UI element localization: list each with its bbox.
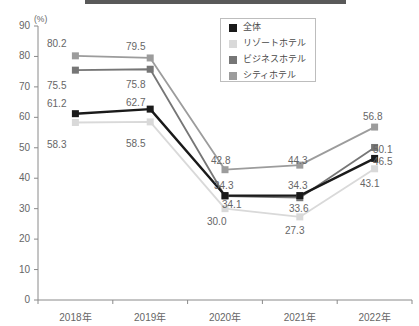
legend-item[interactable]: シティホテル bbox=[229, 68, 315, 83]
data-point-label: 75.8 bbox=[126, 79, 145, 90]
data-point-label: 50.1 bbox=[373, 144, 392, 155]
y-axis-tick-label: 30 bbox=[2, 203, 30, 214]
data-point-label: 27.3 bbox=[285, 225, 304, 236]
data-point-label: 58.5 bbox=[126, 138, 145, 149]
data-point-label: 75.5 bbox=[47, 80, 66, 91]
x-axis-tick-label: 2020年 bbox=[195, 309, 255, 324]
data-point-label: 42.8 bbox=[211, 155, 230, 166]
y-axis-tick-label: 10 bbox=[2, 264, 30, 275]
data-point-label: 43.1 bbox=[360, 178, 379, 189]
y-axis-tick-label: 70 bbox=[2, 81, 30, 92]
legend-item[interactable]: ビジネスホテル bbox=[229, 52, 315, 67]
y-axis-tick-label: 0 bbox=[2, 294, 30, 305]
y-axis-tick-label: 40 bbox=[2, 172, 30, 183]
legend-item-label: ビジネスホテル bbox=[243, 55, 306, 64]
legend-swatch-icon bbox=[229, 56, 237, 64]
data-point-label: 58.3 bbox=[47, 139, 66, 150]
data-point-label: 61.2 bbox=[47, 98, 66, 109]
data-point-label: 46.5 bbox=[373, 156, 392, 167]
data-point-label: 34.1 bbox=[222, 199, 241, 210]
y-axis-tick-label: 60 bbox=[2, 111, 30, 122]
data-point-label: 56.8 bbox=[363, 111, 382, 122]
x-axis-tick-label: 2018年 bbox=[45, 309, 105, 324]
data-point-label: 34.3 bbox=[214, 180, 233, 191]
legend-swatch-icon bbox=[229, 72, 237, 80]
data-point-label: 44.3 bbox=[288, 155, 307, 166]
y-axis-tick-label: 50 bbox=[2, 142, 30, 153]
legend-item-label: シティホテル bbox=[243, 71, 296, 80]
legend-item-label: リゾートホテル bbox=[243, 39, 306, 48]
data-point-label: 79.5 bbox=[126, 41, 145, 52]
data-point-label: 33.6 bbox=[289, 203, 308, 214]
x-axis-tick-label: 2022年 bbox=[345, 309, 405, 324]
data-point-label: 34.3 bbox=[288, 180, 307, 191]
legend-item[interactable]: 全体 bbox=[229, 20, 315, 35]
data-point-label: 30.0 bbox=[207, 216, 226, 227]
line-chart: (%) 0102030405060708090 2018年2019年2020年2… bbox=[0, 0, 419, 326]
x-axis-tick-label: 2021年 bbox=[270, 309, 330, 324]
legend-swatch-icon bbox=[229, 24, 237, 32]
y-axis-tick-label: 20 bbox=[2, 233, 30, 244]
y-axis-tick-label: 80 bbox=[2, 50, 30, 61]
y-axis-tick-label: 90 bbox=[2, 20, 30, 31]
legend: 全体リゾートホテルビジネスホテルシティホテル bbox=[220, 18, 316, 82]
x-axis-tick-label: 2019年 bbox=[120, 309, 180, 324]
data-point-label: 62.7 bbox=[126, 97, 145, 108]
data-point-label: 80.2 bbox=[47, 38, 66, 49]
legend-item-label: 全体 bbox=[243, 23, 261, 32]
legend-swatch-icon bbox=[229, 40, 237, 48]
legend-item[interactable]: リゾートホテル bbox=[229, 36, 315, 51]
